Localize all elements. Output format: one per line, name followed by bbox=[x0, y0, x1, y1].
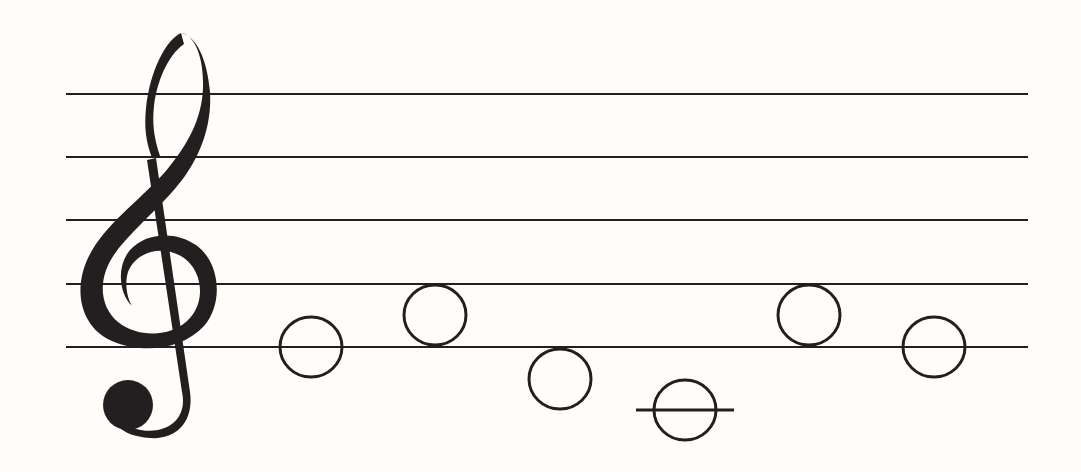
note-head bbox=[529, 349, 591, 409]
music-staff-figure bbox=[0, 0, 1081, 472]
note-head bbox=[404, 285, 466, 345]
note-head bbox=[778, 285, 840, 345]
staff-canvas bbox=[0, 0, 1081, 472]
whole-note-icon bbox=[404, 285, 466, 345]
notes bbox=[280, 285, 965, 440]
whole-note-icon bbox=[636, 380, 734, 440]
whole-note-icon bbox=[778, 285, 840, 345]
whole-note-icon bbox=[529, 349, 591, 409]
